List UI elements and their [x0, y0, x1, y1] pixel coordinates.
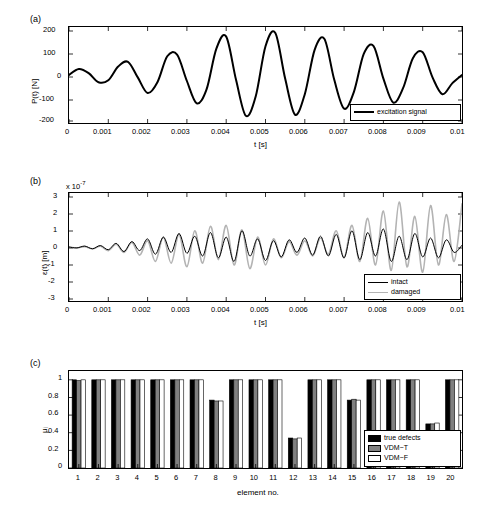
bar: [269, 380, 273, 468]
bar: [92, 380, 96, 468]
panel-c-xtick-2: 2: [95, 473, 99, 482]
panel-b-legend-label-0: intact: [391, 278, 408, 286]
bar: [238, 380, 242, 468]
bar: [337, 380, 341, 468]
bar: [229, 380, 233, 468]
panel-c-xlabel: element no.: [237, 488, 279, 497]
panel-a-legend-label-0: excitation signal: [377, 108, 427, 116]
bar: [140, 380, 144, 468]
bar: [273, 380, 277, 468]
panel-b-ytick-neg2: -2: [48, 276, 55, 285]
panel-c-xtick-14: 14: [328, 473, 336, 482]
panel-a-legend-row-0: excitation signal: [354, 107, 457, 117]
bar: [317, 380, 321, 468]
panel-c-xtick-16: 16: [368, 473, 376, 482]
panel-b-ytick-3: 3: [53, 191, 57, 200]
panel-b-exp-base: x 10: [66, 182, 80, 191]
figure-container: (a): [0, 0, 503, 516]
bar: [253, 380, 257, 468]
panel-a-xtick-0: 0: [65, 127, 69, 136]
panel-b-xtick-10: 0.01: [450, 305, 465, 314]
bar: [136, 380, 140, 468]
legend-line-swatch-excitation: [354, 111, 374, 113]
panel-c-xtick-5: 5: [154, 473, 158, 482]
bar: [116, 380, 120, 468]
bar: [278, 380, 282, 468]
panel-b-ytick-2: 2: [53, 208, 57, 217]
panel-c-xtick-10: 10: [250, 473, 258, 482]
bar: [77, 381, 81, 468]
panel-b-tag: (b): [30, 176, 41, 186]
panel-b-xtick-4: 0.004: [211, 305, 230, 314]
panel-c-legend-row-0: true defects: [368, 433, 457, 443]
panel-c-xtick-6: 6: [174, 473, 178, 482]
panel-c-xtick-8: 8: [213, 473, 217, 482]
bar: [258, 380, 262, 468]
panel-b-line-damaged: [69, 202, 462, 272]
panel-b-xtick-6: 0.006: [289, 305, 308, 314]
bar: [170, 380, 174, 468]
panel-c-xtick-15: 15: [348, 473, 356, 482]
panel-c-xtick-18: 18: [407, 473, 415, 482]
panel-a-xtick-10: 0.01: [450, 127, 465, 136]
bar: [179, 380, 183, 468]
bar: [234, 380, 238, 468]
bar: [96, 380, 100, 468]
panel-b-xtick-7: 0.007: [329, 305, 348, 314]
panel-c-ytick-06: 0.6: [48, 408, 58, 417]
panel-a-xtick-4: 0.004: [211, 127, 230, 136]
bar: [155, 380, 159, 468]
bar: [120, 380, 124, 468]
panel-c-xtick-9: 9: [233, 473, 237, 482]
panel-a-tag: (a): [30, 14, 41, 24]
bar: [195, 380, 199, 468]
panel-a-xtick-8: 0.008: [368, 127, 387, 136]
panel-c-xtick-12: 12: [289, 473, 297, 482]
panel-c-legend-label-1: VDM−T: [384, 444, 408, 452]
panel-c-legend-label-0: true defects: [384, 434, 421, 442]
panel-c-ytick-04: 0.4: [48, 426, 58, 435]
panel-c-xtick-20: 20: [446, 473, 454, 482]
bar: [175, 380, 179, 468]
panel-b-y-exponent: x 10-7: [66, 180, 86, 191]
panel-b-legend: intact damaged: [364, 274, 461, 300]
panel-a-legend: excitation signal: [350, 104, 461, 121]
panel-c-ytick-02: 0.2: [48, 444, 58, 453]
bar: [332, 380, 336, 468]
panel-c-xtick-17: 17: [387, 473, 395, 482]
panel-b: (b) x 10-7: [0, 170, 503, 345]
bar: [81, 380, 85, 468]
bar: [160, 380, 164, 468]
panel-c-xtick-19: 19: [427, 473, 435, 482]
panel-b-xtick-9: 0.009: [407, 305, 426, 314]
panel-a-xlabel: t [s]: [254, 140, 267, 149]
panel-b-xtick-8: 0.008: [368, 305, 387, 314]
panel-c-legend-row-1: VDM−T: [368, 443, 457, 453]
bar: [347, 400, 351, 468]
bar: [101, 380, 105, 468]
bar: [131, 380, 135, 468]
panel-b-xtick-0: 0: [65, 305, 69, 314]
bar: [111, 380, 115, 468]
panel-a-xtick-9: 0.009: [407, 127, 426, 136]
bar: [151, 380, 155, 468]
panel-c-ytick-08: 0.8: [48, 391, 58, 400]
panel-c-tag: (c): [30, 358, 41, 368]
panel-b-xtick-1: 0.001: [93, 305, 112, 314]
panel-a-xtick-7: 0.007: [329, 127, 348, 136]
panel-b-xtick-3: 0.003: [171, 305, 190, 314]
bar: [352, 399, 356, 468]
panel-a-ytick-neg200: -200: [39, 115, 54, 124]
panel-b-ytick-neg1: -1: [48, 259, 55, 268]
panel-b-xtick-5: 0.005: [250, 305, 269, 314]
panel-b-exp-power: -7: [80, 180, 85, 186]
panel-c-legend-row-2: VDM−F: [368, 453, 457, 463]
bar: [308, 380, 312, 468]
panel-b-legend-row-0: intact: [368, 277, 457, 287]
panel-a-ytick-100: 100: [43, 48, 56, 57]
panel-b-legend-label-1: damaged: [391, 288, 420, 296]
panel-c-xtick-13: 13: [309, 473, 317, 482]
panel-c-xtick-3: 3: [115, 473, 119, 482]
legend-line-swatch-intact: [368, 282, 388, 283]
panel-a-ytick-neg100: -100: [39, 94, 54, 103]
